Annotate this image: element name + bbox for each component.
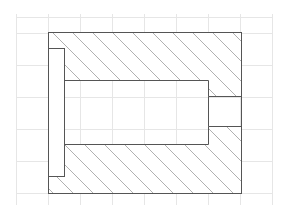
section-drawing: [0, 0, 288, 213]
left-slot-outline: [49, 49, 65, 177]
hatch-line: [240, 0, 288, 213]
hatch-line: [280, 0, 288, 213]
hatch-line: [260, 0, 288, 213]
hatch-line: [0, 0, 40, 213]
